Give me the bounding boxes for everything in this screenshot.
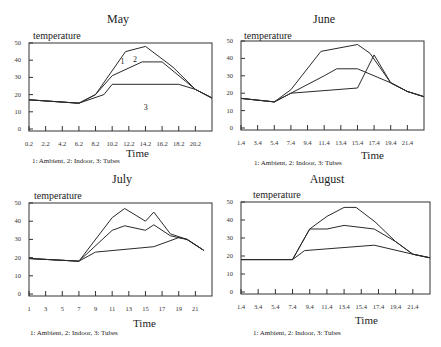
x-tick-label: 3.4 xyxy=(254,303,263,310)
x-tick-label: 5.4 xyxy=(271,303,280,310)
y-tick-label: 50 xyxy=(227,37,234,44)
x-tick-label: 17.4 xyxy=(373,303,385,310)
x-tick-label: 6.2 xyxy=(75,140,83,147)
legend-caption: 1: Ambient, 2: Indoor, 3: Tubes xyxy=(30,329,118,337)
y-tick-label: 0 xyxy=(230,124,233,131)
x-tick-label: 2.2 xyxy=(42,140,50,147)
y-tick-label: 40 xyxy=(227,54,234,61)
x-tick-label: 7.4 xyxy=(288,303,297,310)
y-tick-label: 30 xyxy=(15,73,22,80)
series-line-2 xyxy=(29,62,212,103)
series-line-3 xyxy=(29,238,204,262)
x-axis-label: Time xyxy=(126,147,149,159)
x-tick-label: 3.4 xyxy=(254,139,263,146)
x-tick-label: 11.4 xyxy=(319,139,331,146)
y-tick-label: 30 xyxy=(15,235,22,242)
x-tick-label: 9.4 xyxy=(303,139,312,146)
x-tick-label: 5.4 xyxy=(270,139,279,146)
x-tick-label: 13.4 xyxy=(338,303,350,310)
x-tick-label: 19.4 xyxy=(390,303,402,310)
legend-caption: 1: Ambient, 2: Indoor, 3: Tubes xyxy=(254,159,342,167)
y-tick-label: 40 xyxy=(227,216,234,223)
chart-july: July temperature 01020304050135791113151… xyxy=(0,170,220,343)
x-tick-label: 18.2 xyxy=(173,140,184,147)
y-tick-label: 10 xyxy=(15,272,22,279)
x-tick-label: 4.2 xyxy=(58,140,66,147)
x-tick-label: 17 xyxy=(159,305,166,312)
y-tick-label: 30 xyxy=(227,72,234,79)
series-line-3 xyxy=(241,245,430,259)
x-tick-label: 15.4 xyxy=(356,303,368,310)
x-tick-label: 15.4 xyxy=(352,139,364,146)
series-number-label: 1 xyxy=(121,57,125,66)
x-tick-label: 8.2 xyxy=(91,140,99,147)
x-tick-label: 1.4 xyxy=(237,303,246,310)
y-tick-label: 0 xyxy=(18,125,21,132)
x-tick-label: 10.2 xyxy=(106,140,117,147)
x-tick-label: 21.4 xyxy=(402,139,414,146)
y-tick-label: 20 xyxy=(15,254,22,261)
plot-area: 010203040500.22.24.26.28.210.212.214.216… xyxy=(0,0,220,175)
x-tick-label: 11.4 xyxy=(321,303,333,310)
y-tick-label: 0 xyxy=(230,288,233,295)
x-tick-label: 20.2 xyxy=(190,140,201,147)
series-line-2 xyxy=(241,225,430,259)
y-tick-label: 20 xyxy=(227,252,234,259)
series-line-2 xyxy=(29,225,204,261)
x-tick-label: 21.4 xyxy=(407,303,419,310)
chart-august: August temperature 010203040501.43.45.47… xyxy=(220,170,440,343)
x-tick-label: 1 xyxy=(27,305,30,312)
legend-caption: 1: Ambient, 2: Indoor, 3: Tubes xyxy=(253,329,341,337)
plot-area: 010203040501.43.45.47.49.411.413.415.417… xyxy=(220,0,440,175)
x-tick-label: 14.2 xyxy=(140,140,151,147)
y-tick-label: 50 xyxy=(15,39,22,46)
series-line-1 xyxy=(29,46,212,103)
x-tick-label: 19 xyxy=(175,305,182,312)
x-tick-label: 12.2 xyxy=(123,140,134,147)
x-tick-label: 9 xyxy=(94,305,97,312)
y-tick-label: 40 xyxy=(15,217,22,224)
x-tick-label: 13 xyxy=(126,305,133,312)
plot-area: 0102030405013579111315171921 xyxy=(0,170,220,347)
x-tick-label: 9.4 xyxy=(306,303,315,310)
x-tick-label: 5 xyxy=(61,305,64,312)
x-tick-label: 19.4 xyxy=(385,139,397,146)
y-tick-label: 20 xyxy=(15,91,22,98)
series-line-3 xyxy=(29,84,212,103)
x-tick-label: 11 xyxy=(109,305,115,312)
y-tick-label: 30 xyxy=(227,234,234,241)
x-tick-label: 1.4 xyxy=(237,139,246,146)
plot-area: 010203040501.43.45.47.49.411.413.415.417… xyxy=(220,170,441,347)
y-tick-label: 10 xyxy=(227,107,234,114)
series-line-1 xyxy=(241,45,424,102)
x-tick-label: 7 xyxy=(77,305,81,312)
y-tick-label: 10 xyxy=(15,108,22,115)
legend-caption: 1: Ambient, 2: Indoor, 3: Tubes xyxy=(32,157,120,165)
x-tick-label: 16.2 xyxy=(156,140,167,147)
chart-may: May temperature 010203040500.22.24.26.28… xyxy=(0,0,220,173)
x-tick-label: 7.4 xyxy=(287,139,296,146)
x-tick-label: 17.4 xyxy=(368,139,380,146)
x-axis-label: Time xyxy=(133,317,156,329)
series-line-1 xyxy=(29,209,204,262)
y-tick-label: 40 xyxy=(15,56,22,63)
y-tick-label: 50 xyxy=(227,198,234,205)
x-tick-label: 3 xyxy=(44,305,47,312)
series-number-label: 3 xyxy=(144,103,148,112)
x-tick-label: 15 xyxy=(142,305,149,312)
series-line-3 xyxy=(241,55,424,102)
series-number-label: 2 xyxy=(133,55,137,64)
x-axis-label: Time xyxy=(361,149,384,161)
x-tick-label: 0.2 xyxy=(25,140,33,147)
x-tick-label: 13.4 xyxy=(335,139,347,146)
y-tick-label: 20 xyxy=(227,89,234,96)
y-tick-label: 0 xyxy=(18,290,21,297)
y-tick-label: 50 xyxy=(15,199,22,206)
x-axis-label: Time xyxy=(355,314,378,326)
x-tick-label: 21 xyxy=(192,305,199,312)
chart-june: June temperature 010203040501.43.45.47.4… xyxy=(220,0,440,173)
y-tick-label: 10 xyxy=(227,270,234,277)
